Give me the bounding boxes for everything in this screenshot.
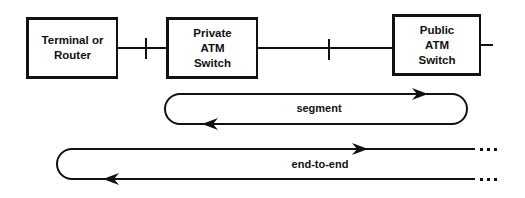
node-label-line: Public: [418, 23, 455, 38]
node-label-line: ATM: [193, 41, 231, 56]
node-label-line: Switch: [193, 56, 231, 71]
node-label-line: Switch: [418, 53, 455, 68]
terminal-router-box: Terminal or Router: [26, 17, 118, 79]
end-to-end-label: end-to-end: [292, 158, 349, 170]
segment-label: segment: [296, 102, 341, 114]
node-label-line: Private: [193, 26, 231, 41]
end-to-end-loop: [57, 149, 475, 179]
node-label-line: ATM: [418, 38, 455, 53]
node-label-line: Router: [42, 48, 104, 63]
continuation-dots: [480, 148, 497, 181]
node-label-line: Terminal or: [42, 33, 104, 48]
private-atm-switch-box: Private ATM Switch: [166, 17, 258, 79]
public-atm-switch-box: Public ATM Switch: [392, 14, 481, 76]
